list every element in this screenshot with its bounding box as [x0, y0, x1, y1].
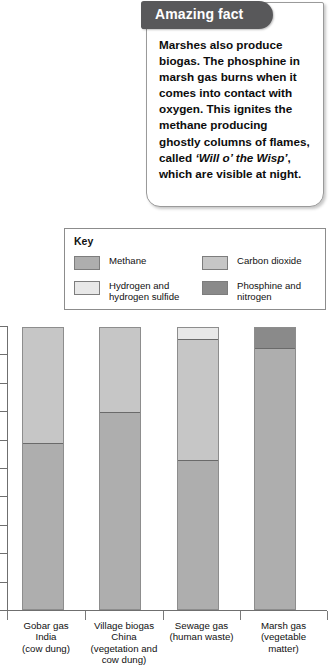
legend-item-methane: Methane — [74, 255, 146, 270]
bar-segment — [255, 348, 295, 609]
legend-swatch-carbon-dioxide — [202, 256, 228, 270]
legend-swatch-phosphine — [202, 281, 228, 295]
bar-segment — [178, 339, 218, 460]
legend-item-hydrogen: Hydrogen and hydrogen sulfide — [74, 280, 179, 303]
amazing-fact-text: Marshes also produce biogas. The phosphi… — [159, 37, 311, 182]
y-axis-tick — [0, 326, 8, 327]
legend-label-hydrogen: Hydrogen and hydrogen sulfide — [109, 280, 179, 303]
y-axis-tick — [0, 468, 8, 469]
x-axis-separator — [7, 611, 8, 620]
fact-text-emphasis: ‘Will o’ the Wisp’ — [195, 151, 287, 164]
bar-segment — [100, 412, 140, 609]
y-axis-tick — [0, 525, 8, 526]
x-axis-separator — [85, 611, 86, 620]
x-axis — [7, 610, 327, 611]
x-axis-separator — [163, 611, 164, 620]
stacked-bar — [22, 327, 64, 610]
legend-swatch-hydrogen — [74, 281, 100, 295]
legend-title: Key — [74, 235, 93, 247]
legend-label-carbon-dioxide: Carbon dioxide — [237, 255, 302, 266]
stacked-bar — [177, 327, 219, 610]
y-axis-tick — [0, 496, 8, 497]
x-axis-label: Marsh gas (vegetable matter) — [240, 620, 327, 654]
stacked-bar — [254, 327, 296, 610]
fact-text-part-1: Marshes also produce biogas. The phosphi… — [159, 38, 310, 164]
y-axis-tick — [0, 440, 8, 441]
x-axis-label: Sewage gas (human waste) — [163, 620, 240, 643]
legend-swatch-methane — [74, 256, 100, 270]
bar-segment — [178, 328, 218, 339]
x-axis-separator — [327, 611, 328, 620]
bar-segment — [178, 460, 218, 609]
bar-segment — [23, 328, 63, 443]
amazing-fact-title: Amazing fact — [155, 6, 243, 22]
x-axis-label: Village biogas China (vegetation and cow… — [85, 620, 163, 665]
y-axis-tick — [0, 411, 8, 412]
x-axis-separator — [240, 611, 241, 620]
x-axis-label: Gobar gas India (cow dung) — [7, 620, 85, 654]
y-axis-tick — [0, 383, 8, 384]
stacked-bar — [99, 327, 141, 610]
biogas-composition-chart — [0, 326, 335, 611]
bar-segment — [100, 328, 140, 412]
legend-label-phosphine: Phosphine and nitrogen — [237, 280, 301, 303]
bar-segment — [23, 443, 63, 609]
legend-item-carbon-dioxide: Carbon dioxide — [202, 255, 302, 270]
bar-segment — [255, 328, 295, 348]
y-axis-tick — [0, 582, 8, 583]
y-axis-tick — [0, 553, 8, 554]
chart-legend: Key Methane Hydrogen and hydrogen sulfid… — [64, 228, 326, 310]
y-axis-tick — [0, 354, 8, 355]
amazing-fact-callout: Amazing fact Marshes also produce biogas… — [146, 2, 324, 207]
legend-item-phosphine: Phosphine and nitrogen — [202, 280, 301, 303]
amazing-fact-banner: Amazing fact — [141, 1, 273, 29]
legend-label-methane: Methane — [109, 255, 146, 266]
